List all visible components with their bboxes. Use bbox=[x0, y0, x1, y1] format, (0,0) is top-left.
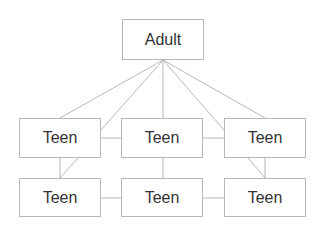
node-label: Teen bbox=[248, 129, 283, 147]
node-label: Adult bbox=[145, 31, 181, 49]
node-label: Teen bbox=[43, 189, 78, 207]
node-teen: Teen bbox=[224, 178, 306, 217]
node-label: Teen bbox=[145, 129, 180, 147]
node-label: Teen bbox=[248, 189, 283, 207]
node-adult: Adult bbox=[122, 19, 204, 60]
node-teen: Teen bbox=[121, 118, 203, 158]
node-teen: Teen bbox=[224, 118, 306, 158]
node-label: Teen bbox=[145, 189, 180, 207]
node-teen: Teen bbox=[19, 178, 101, 217]
hierarchy-diagram: Adult Teen Teen Teen Teen Teen Teen bbox=[0, 0, 322, 230]
node-label: Teen bbox=[43, 129, 78, 147]
node-teen: Teen bbox=[121, 178, 203, 217]
node-teen: Teen bbox=[19, 118, 101, 158]
